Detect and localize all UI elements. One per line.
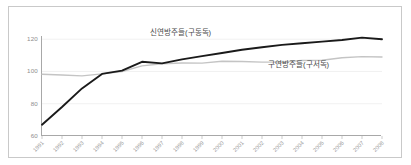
x-tick-label: 1996 <box>133 141 146 154</box>
x-tick-label: 2005 <box>313 141 326 154</box>
x-tick-label: 1994 <box>93 141 106 154</box>
x-tick-label: 1993 <box>73 141 86 154</box>
x-tick-label: 2006 <box>333 141 346 154</box>
x-tick-label: 2000 <box>213 141 226 154</box>
x-axis: 1991199219931994199519961997199819992000… <box>41 136 381 164</box>
x-tick-label: 2003 <box>273 141 286 154</box>
line-chart-canvas <box>42 36 382 136</box>
y-tick-label: 60 <box>31 133 38 139</box>
y-tick-label: 120 <box>27 36 38 42</box>
gridlines-group <box>42 39 382 104</box>
x-tick-label: 2001 <box>233 141 246 154</box>
x-tick-label: 1998 <box>173 141 186 154</box>
x-tick-label: 1992 <box>53 141 66 154</box>
y-tick-label: 80 <box>31 101 38 107</box>
x-tick-label: 2004 <box>293 141 306 154</box>
chart-figure: 6080100120 19911992199319941995199619971… <box>0 0 411 165</box>
plot-area <box>41 36 381 136</box>
series-line-old-states <box>42 57 382 76</box>
series-annotation-old-states: 구연방주들(구서독) <box>268 61 329 69</box>
y-axis: 6080100120 <box>12 0 38 165</box>
y-tick-label: 100 <box>27 68 38 74</box>
x-tick-label: 1995 <box>113 141 126 154</box>
series-line-new-states <box>42 38 382 125</box>
x-tick-label: 1999 <box>193 141 206 154</box>
x-tick-label: 2002 <box>253 141 266 154</box>
series-annotation-new-states: 신연방주들(구동독) <box>150 29 211 37</box>
x-tick-label: 2007 <box>353 141 366 154</box>
x-tick-label: 1997 <box>153 141 166 154</box>
